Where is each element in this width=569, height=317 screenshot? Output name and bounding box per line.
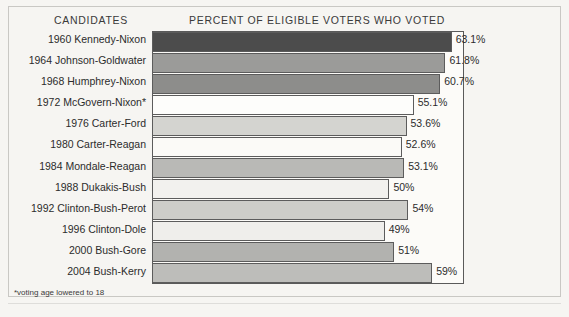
bar (152, 95, 414, 115)
bar-value-label: 52.6% (406, 138, 436, 150)
bar (152, 263, 432, 283)
bar-value-label: 55.1% (418, 96, 448, 108)
bar-value-label: 54% (412, 202, 433, 214)
candidate-label: 2000 Bush-Gore (10, 244, 146, 256)
bar (152, 32, 452, 52)
percent-column-header: PERCENT OF ELIGIBLE VOTERS WHO VOTED (152, 14, 482, 26)
table-row: 1984 Mondale-Reagan53.1% (0, 158, 569, 179)
bar-value-label: 50% (393, 181, 414, 193)
bar-value-label: 51% (398, 244, 419, 256)
frame-top-border (8, 6, 561, 7)
candidate-label: 1960 Kennedy-Nixon (10, 33, 146, 45)
table-row: 2004 Bush-Kerry59% (0, 263, 569, 284)
table-row: 2000 Bush-Gore51% (0, 242, 569, 263)
bottom-rule (8, 303, 561, 304)
candidate-label: 1980 Carter-Reagan (10, 138, 146, 150)
bar (152, 221, 385, 241)
candidates-column-header: CANDIDATES (30, 14, 152, 26)
table-row: 1972 McGovern-Nixon*55.1% (0, 94, 569, 115)
candidate-label: 1972 McGovern-Nixon* (10, 96, 146, 108)
bar-value-label: 63.1% (456, 33, 486, 45)
bar-value-label: 61.8% (449, 54, 479, 66)
bar (152, 116, 407, 136)
bar-value-label: 49% (389, 223, 410, 235)
table-row: 1976 Carter-Ford53.6% (0, 115, 569, 136)
bar-value-label: 53.6% (411, 117, 441, 129)
candidate-label: 1976 Carter-Ford (10, 117, 146, 129)
candidate-label: 1964 Johnson-Goldwater (10, 54, 146, 66)
table-row: 1992 Clinton-Bush-Perot54% (0, 200, 569, 221)
candidate-label: 1992 Clinton-Bush-Perot (10, 202, 146, 214)
candidate-label: 1988 Dukakis-Bush (10, 181, 146, 193)
chart-header: CANDIDATES PERCENT OF ELIGIBLE VOTERS WH… (0, 14, 569, 30)
table-row: 1996 Clinton-Dole49% (0, 221, 569, 242)
bar (152, 137, 402, 157)
candidate-label: 1968 Humphrey-Nixon (10, 75, 146, 87)
table-row: 1968 Humphrey-Nixon60.7% (0, 73, 569, 94)
bar-value-label: 59% (436, 265, 457, 277)
bar (152, 158, 404, 178)
candidate-label: 2004 Bush-Kerry (10, 265, 146, 277)
bar (152, 179, 389, 199)
bar-rows-container: 1960 Kennedy-Nixon63.1%1964 Johnson-Gold… (0, 31, 569, 284)
table-row: 1980 Carter-Reagan52.6% (0, 136, 569, 157)
table-row: 1964 Johnson-Goldwater61.8% (0, 52, 569, 73)
voter-turnout-bar-chart: CANDIDATES PERCENT OF ELIGIBLE VOTERS WH… (0, 0, 569, 317)
bar (152, 74, 440, 94)
candidate-label: 1996 Clinton-Dole (10, 223, 146, 235)
bar (152, 200, 408, 220)
table-row: 1988 Dukakis-Bush50% (0, 179, 569, 200)
bar (152, 242, 394, 262)
candidate-label: 1984 Mondale-Reagan (10, 160, 146, 172)
bar-value-label: 60.7% (444, 75, 474, 87)
bar (152, 53, 445, 73)
bar-value-label: 53.1% (408, 160, 438, 172)
chart-footnote: *voting age lowered to 18 (14, 288, 104, 297)
table-row: 1960 Kennedy-Nixon63.1% (0, 31, 569, 52)
